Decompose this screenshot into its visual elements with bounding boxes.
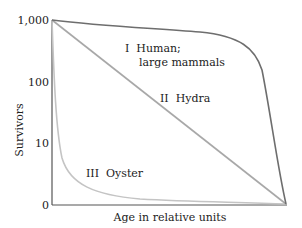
y-tick-10: 10 bbox=[35, 137, 49, 150]
human-label-line1: I Human; bbox=[125, 42, 181, 55]
y-tick-1000: 1,000 bbox=[18, 14, 50, 27]
y-axis-label: Survivors bbox=[13, 103, 26, 157]
y-tick-100: 100 bbox=[28, 76, 49, 89]
survivorship-chart: 1,000 100 10 0 Survivors Age in relative… bbox=[0, 0, 302, 228]
x-axis-label: Age in relative units bbox=[113, 211, 227, 224]
y-tick-0: 0 bbox=[42, 199, 49, 212]
oyster-label: III Oyster bbox=[86, 167, 144, 180]
hydra-label: II Hydra bbox=[160, 92, 211, 105]
human-label-line2: large mammals bbox=[139, 56, 225, 69]
